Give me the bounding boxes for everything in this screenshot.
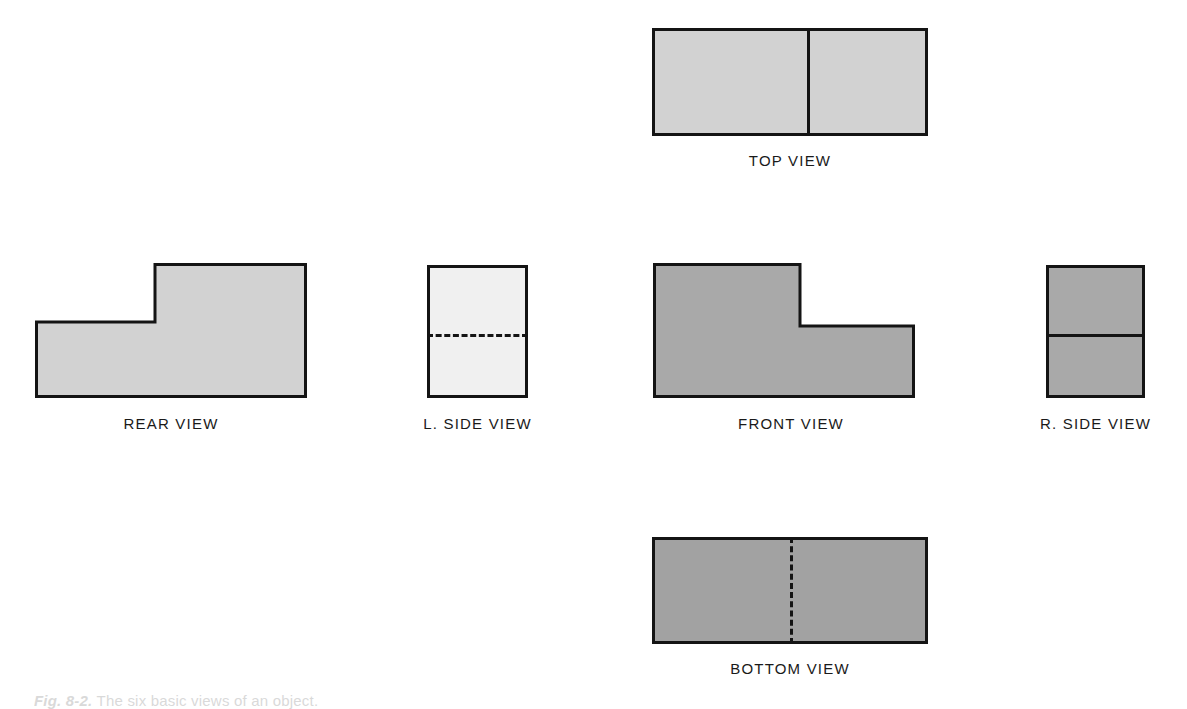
view-bottom: BOTTOM VIEW — [652, 537, 928, 644]
bottom-view-figure — [652, 537, 928, 644]
view-left-side: L. SIDE VIEW — [427, 265, 528, 398]
top-view-divider-line — [807, 28, 810, 136]
top-view-figure — [652, 28, 928, 136]
figure-caption-id: Fig. 8-2. — [34, 692, 92, 709]
top-view-rect — [652, 28, 928, 136]
left-side-view-rect — [427, 265, 528, 398]
top-view-label: TOP VIEW — [749, 152, 831, 169]
front-view-lshape — [653, 263, 915, 398]
right-side-view-figure — [1046, 265, 1145, 398]
bottom-view-label: BOTTOM VIEW — [730, 660, 850, 677]
view-top: TOP VIEW — [652, 28, 928, 136]
view-right-side: R. SIDE VIEW — [1046, 265, 1145, 398]
rear-view-lshape — [35, 263, 307, 398]
right-side-view-label: R. SIDE VIEW — [1040, 415, 1151, 432]
right-side-view-divider-line — [1046, 334, 1145, 337]
left-side-view-hidden-line — [427, 334, 528, 337]
rear-view-label: REAR VIEW — [124, 415, 219, 432]
rear-view-figure — [35, 263, 307, 398]
right-side-view-rect — [1046, 265, 1145, 398]
left-side-view-figure — [427, 265, 528, 398]
view-rear: REAR VIEW — [35, 263, 307, 398]
left-side-view-label: L. SIDE VIEW — [423, 415, 532, 432]
bottom-view-hidden-line — [790, 537, 793, 644]
view-front: FRONT VIEW — [653, 263, 915, 398]
figure-caption-text: The six basic views of an object. — [97, 692, 319, 709]
front-view-figure — [653, 263, 915, 398]
figure-caption: Fig. 8-2. The six basic views of an obje… — [34, 692, 318, 709]
front-view-label: FRONT VIEW — [738, 415, 844, 432]
